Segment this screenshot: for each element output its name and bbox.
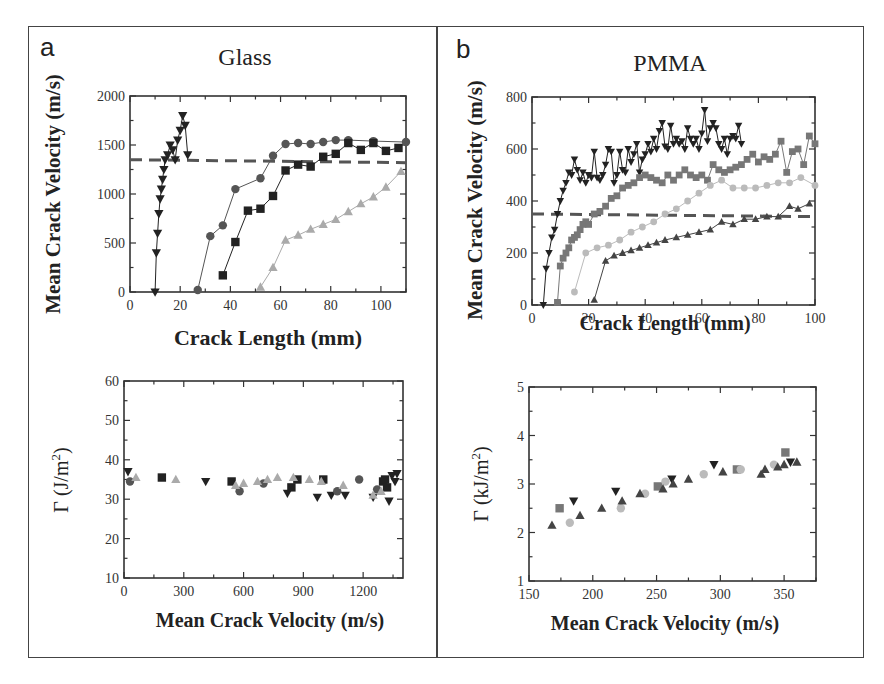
- y-axis-label: Mean Crack Velocity (m/s): [41, 74, 65, 314]
- inverted-triangle-marker: [684, 125, 691, 132]
- square-marker: [772, 151, 779, 158]
- inverted-triangle-marker: [313, 494, 322, 502]
- circle-marker: [402, 138, 410, 146]
- circle-marker: [219, 221, 227, 229]
- square-marker: [783, 169, 790, 176]
- y-tick-label: 2000: [97, 89, 125, 104]
- inverted-triangle-marker: [152, 249, 161, 257]
- inverted-triangle-marker: [557, 198, 564, 205]
- square-marker: [659, 179, 666, 186]
- inverted-triangle-marker: [724, 151, 731, 158]
- inverted-triangle-marker: [551, 227, 558, 234]
- circle-marker: [605, 242, 612, 249]
- circle-marker: [730, 185, 737, 192]
- inverted-triangle-marker: [569, 497, 578, 505]
- triangle-marker: [131, 473, 140, 481]
- y-axis-label: Mean Crack Velocity (m/s): [463, 80, 487, 320]
- inverted-triangle-marker: [656, 128, 663, 135]
- square-marker: [219, 271, 227, 279]
- x-axis-label: Mean Crack Velocity (m/s): [156, 609, 384, 632]
- y-tick-label: 2: [517, 526, 524, 541]
- circle-marker: [786, 179, 793, 186]
- series-circle: [571, 174, 818, 295]
- y-tick-label: 1500: [97, 138, 125, 153]
- inverted-triangle-marker: [341, 492, 350, 500]
- x-tick-label: 250: [646, 587, 667, 602]
- inverted-triangle-marker: [738, 141, 745, 148]
- circle-marker: [707, 182, 714, 189]
- x-tick-label: 60: [274, 298, 288, 313]
- y-tick-label: 40: [105, 453, 119, 468]
- square-marker: [256, 205, 264, 213]
- square-marker: [554, 299, 561, 306]
- x-tick-label: 100: [805, 311, 826, 326]
- square-marker: [749, 151, 756, 158]
- plot-area: [532, 97, 815, 305]
- x-axis-label: Crack Length (mm): [174, 325, 362, 350]
- x-tick-label: 600: [233, 584, 254, 599]
- inverted-triangle-marker: [582, 180, 589, 187]
- circle-marker: [684, 198, 691, 205]
- inverted-triangle-marker: [542, 266, 549, 273]
- series-inverted-triangle: [569, 459, 795, 506]
- series-line: [260, 171, 401, 287]
- square-marker: [382, 147, 390, 155]
- inverted-triangle-marker: [633, 141, 640, 148]
- triangle-marker: [356, 199, 365, 207]
- x-tick-label: 0: [529, 311, 536, 326]
- x-tick-label: 200: [582, 587, 603, 602]
- inverted-triangle-marker: [155, 195, 164, 203]
- inverted-triangle-marker: [559, 188, 566, 195]
- inverted-triangle-marker: [157, 186, 166, 194]
- square-marker: [381, 475, 389, 483]
- circle-marker: [566, 519, 574, 527]
- triangle-marker: [718, 218, 725, 225]
- pmma-velocity-chart: 0204060801000200400600800Crack Length (m…: [463, 80, 826, 335]
- circle-marker: [571, 289, 578, 296]
- x-tick-label: 0: [127, 298, 134, 313]
- reference-dashed-line: [130, 160, 406, 163]
- series-triangle: [591, 200, 814, 303]
- circle-marker: [775, 179, 782, 186]
- y-tick-label: 3: [517, 477, 524, 492]
- series-line: [574, 178, 815, 292]
- triangle-marker: [305, 475, 314, 483]
- y-axis-label: Γ (J/m2): [48, 447, 73, 512]
- square-marker: [158, 473, 166, 481]
- square-marker: [557, 263, 564, 270]
- triangle-marker: [171, 475, 180, 483]
- inverted-triangle-marker: [154, 210, 163, 218]
- inverted-triangle-marker: [712, 125, 719, 132]
- square-marker: [287, 483, 295, 491]
- y-tick-label: 60: [105, 374, 119, 389]
- inverted-triangle-marker: [611, 488, 620, 496]
- y-tick-label: 10: [105, 571, 119, 586]
- square-marker: [319, 153, 327, 161]
- triangle-marker: [239, 479, 248, 487]
- circle-marker: [763, 182, 770, 189]
- inverted-triangle-marker: [176, 127, 185, 135]
- circle-marker: [650, 218, 657, 225]
- inverted-triangle-marker: [201, 478, 210, 486]
- circle-marker: [737, 465, 745, 473]
- series-triangle: [547, 457, 801, 528]
- inverted-triangle-marker: [183, 151, 192, 159]
- circle-marker: [616, 237, 623, 244]
- triangle-marker: [281, 235, 290, 243]
- circle-marker: [582, 250, 589, 257]
- glass-velocity-chart: 0204060801000500100015002000Crack Length…: [41, 74, 410, 350]
- inverted-triangle-marker: [630, 151, 637, 158]
- y-tick-label: 20: [105, 532, 119, 547]
- triangle-marker: [760, 465, 769, 473]
- circle-marker: [594, 244, 601, 251]
- y-tick-label: 1: [517, 574, 524, 589]
- circle-marker: [752, 185, 759, 192]
- square-marker: [555, 504, 563, 512]
- inverted-triangle-marker: [616, 149, 623, 156]
- square-marker: [269, 192, 277, 200]
- square-marker: [344, 139, 352, 147]
- circle-marker: [617, 504, 625, 512]
- square-marker: [332, 150, 340, 158]
- circle-marker: [696, 190, 703, 197]
- square-marker: [357, 146, 365, 154]
